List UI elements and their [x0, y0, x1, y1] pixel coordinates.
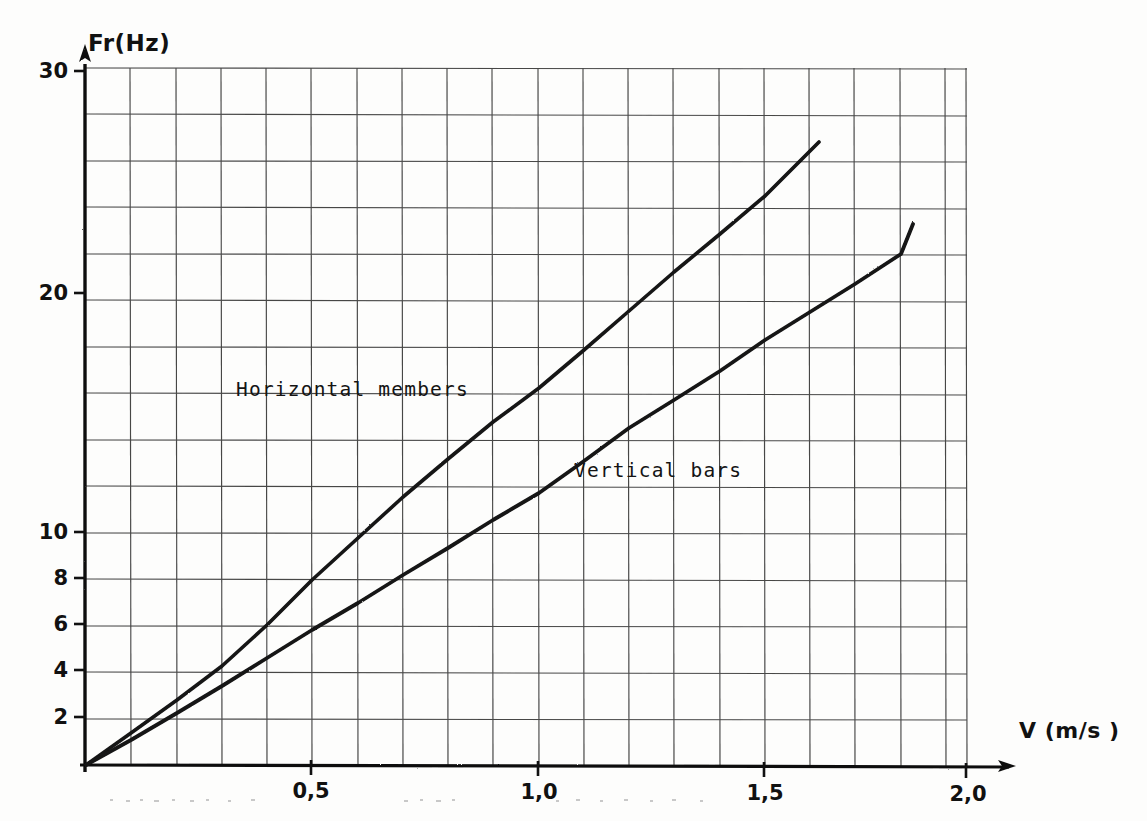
- grid-lines: [85, 68, 967, 767]
- series-label-vertical-bars: Vertical bars: [574, 459, 742, 482]
- y-tick-label-10: 10: [20, 520, 68, 544]
- chart-figure: Fr(Hz) V (m/s ) 30 20 10 8 6 4 2 0,5 1,0…: [0, 0, 1147, 821]
- plot-canvas: [0, 0, 1147, 821]
- x-axis-ticks: [311, 760, 966, 778]
- y-tick-label-30: 30: [20, 59, 68, 83]
- series-label-horizontal-members: Horizontal members: [236, 378, 469, 401]
- series-horizontal-members: [86, 142, 819, 765]
- x-tick-label-0-5: 0,5: [292, 779, 329, 803]
- x-tick-label-1-0: 1,0: [520, 780, 557, 804]
- x-axis-title: V (m/s ): [1019, 718, 1120, 743]
- y-tick-label-8: 8: [20, 566, 68, 590]
- series-vertical-bars: [86, 224, 913, 765]
- y-tick-label-4: 4: [20, 658, 68, 682]
- scan-speckle: [110, 799, 703, 802]
- y-axis: [79, 44, 91, 772]
- y-tick-label-2: 2: [20, 705, 68, 729]
- y-tick-label-6: 6: [20, 612, 68, 636]
- x-tick-label-2-0: 2,0: [949, 782, 986, 806]
- y-tick-label-20: 20: [20, 281, 68, 305]
- x-tick-label-1-5: 1,5: [746, 781, 783, 805]
- x-axis: [80, 760, 1016, 772]
- y-axis-title: Fr(Hz): [88, 30, 170, 56]
